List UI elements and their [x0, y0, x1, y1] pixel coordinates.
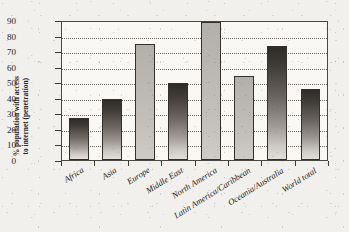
- y-tick-label: 20: [0, 125, 16, 135]
- y-tick-label: 30: [0, 109, 16, 119]
- bar-world-total: [301, 89, 321, 160]
- bar-asia: [102, 99, 122, 160]
- y-tick-label: 70: [0, 47, 16, 57]
- y-tick-label: 80: [0, 32, 16, 42]
- y-tick-label: 10: [0, 140, 16, 150]
- bar-series: [62, 22, 327, 160]
- y-tick-mark: [55, 21, 61, 22]
- y-tick-label: 0: [0, 156, 16, 166]
- bar-slot: [161, 22, 194, 160]
- x-axis-label: World total: [280, 165, 318, 194]
- y-tick-mark: [55, 68, 61, 69]
- bar-slot: [294, 22, 327, 160]
- plot-area: [61, 21, 328, 161]
- x-tick-mark: [328, 161, 329, 166]
- y-tick-label: 50: [0, 78, 16, 88]
- y-tick-mark: [55, 145, 61, 146]
- y-tick-mark: [55, 52, 61, 53]
- y-tick-mark: [55, 37, 61, 38]
- bar-slot: [128, 22, 161, 160]
- bar-slot: [195, 22, 228, 160]
- bar-africa: [69, 118, 89, 160]
- bar-latin-america-caribbean: [234, 76, 254, 160]
- bar-europe: [135, 44, 155, 160]
- y-tick-label: 60: [0, 63, 16, 73]
- y-tick-mark: [55, 99, 61, 100]
- x-axis-label: Africa: [62, 165, 86, 185]
- bar-oceania-australia: [267, 46, 287, 160]
- bar-slot: [228, 22, 261, 160]
- bar-slot: [95, 22, 128, 160]
- y-tick-mark: [55, 114, 61, 115]
- y-tick-mark: [55, 130, 61, 131]
- bar-north-america: [201, 22, 221, 160]
- y-tick-mark: [55, 83, 61, 84]
- bar-slot: [261, 22, 294, 160]
- x-axis-label: Asia: [100, 165, 118, 182]
- bar-middle-east: [168, 83, 188, 160]
- y-tick-label: 40: [0, 94, 16, 104]
- bar-slot: [62, 22, 95, 160]
- bar-chart: % population with access to internet (pe…: [0, 0, 349, 232]
- y-axis-title-line-2: to internet (penetration): [21, 76, 30, 156]
- y-tick-label: 90: [0, 16, 16, 26]
- x-axis-labels: AfricaAsiaEuropeMiddle EastNorth America…: [61, 166, 328, 230]
